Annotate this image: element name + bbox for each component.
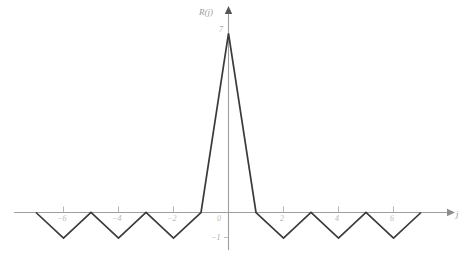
x-axis-arrowhead — [447, 209, 455, 216]
x-tick-label-4: 4 — [335, 214, 339, 223]
y-axis — [225, 6, 232, 250]
chart-canvas — [0, 0, 465, 265]
y-axis-title: R(j) — [199, 7, 213, 17]
autocorrelation-chart-figure: R(j) j 7 −1 −6 −4 −2 0 2 4 6 — [0, 0, 465, 265]
x-axis-title: j — [456, 209, 459, 219]
x-tick-label-zero: 0 — [217, 214, 221, 223]
x-tick-label-minus2: −2 — [167, 214, 176, 223]
x-axis — [14, 209, 455, 216]
x-tick-label-minus4: −4 — [112, 214, 121, 223]
x-tick-label-minus6: −6 — [57, 214, 66, 223]
peak-value-label: 7 — [219, 25, 223, 34]
floor-value-label: −1 — [211, 233, 220, 242]
x-tick-label-2: 2 — [280, 214, 284, 223]
y-axis-arrowhead — [225, 6, 232, 14]
x-tick-label-6: 6 — [390, 214, 394, 223]
